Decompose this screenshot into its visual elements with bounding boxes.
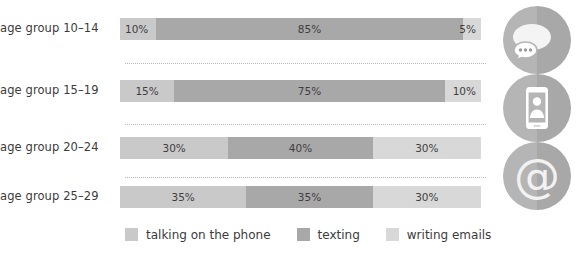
segment-value: 85% bbox=[298, 24, 321, 35]
chart-row: age group 10–14 10% 85% 5% bbox=[0, 18, 495, 40]
chart-row: age group 15–19 15% 75% 10% bbox=[0, 80, 495, 102]
segment-value: 10% bbox=[453, 86, 476, 97]
bar-segment-talking: 15% bbox=[120, 80, 174, 102]
bar-segment-texting: 35% bbox=[246, 186, 372, 208]
legend-swatch-icon bbox=[125, 228, 138, 241]
row-label-age-20-24: age group 20–24 bbox=[0, 142, 120, 154]
bar-segment-emails: 30% bbox=[373, 137, 481, 159]
row-label-age-25-29: age group 25–29 bbox=[0, 191, 120, 203]
legend-item-talking: talking on the phone bbox=[125, 228, 271, 241]
legend-item-emails: writing emails bbox=[386, 228, 492, 241]
segment-value: 30% bbox=[415, 143, 438, 154]
legend-label: writing emails bbox=[407, 229, 492, 241]
bar-segment-talking: 30% bbox=[120, 137, 228, 159]
row-label-age-10-14: age group 10–14 bbox=[0, 23, 120, 35]
segment-value: 10% bbox=[125, 24, 148, 35]
bar-segment-texting: 75% bbox=[174, 80, 445, 102]
bar-segment-talking: 35% bbox=[120, 186, 246, 208]
bar-segment-texting: 85% bbox=[156, 18, 463, 40]
segment-value: 75% bbox=[298, 86, 321, 97]
segment-value: 35% bbox=[172, 192, 195, 203]
stacked-bar: 30% 40% 30% bbox=[120, 137, 481, 159]
row-label-age-15-19: age group 15–19 bbox=[0, 85, 120, 97]
chat-bubbles-glyph bbox=[503, 6, 571, 74]
chart-row: age group 20–24 30% 40% 30% bbox=[0, 137, 495, 159]
row-divider bbox=[125, 177, 486, 178]
stacked-bar: 15% 75% 10% bbox=[120, 80, 481, 102]
segment-value: 30% bbox=[162, 143, 185, 154]
legend-label: talking on the phone bbox=[146, 229, 271, 241]
infographic-root: age group 10–14 10% 85% 5% age group 15–… bbox=[0, 0, 581, 259]
legend-label: texting bbox=[318, 229, 360, 241]
segment-value: 40% bbox=[289, 143, 312, 154]
chart-legend: talking on the phone texting writing ema… bbox=[125, 228, 517, 241]
row-divider bbox=[125, 124, 486, 125]
smartphone-contact-icon bbox=[503, 74, 571, 142]
bar-segment-emails: 30% bbox=[373, 186, 481, 208]
bar-segment-texting: 40% bbox=[228, 137, 372, 159]
chat-bubbles-icon bbox=[503, 6, 571, 74]
stacked-bar: 10% 85% 5% bbox=[120, 18, 481, 40]
segment-value: 35% bbox=[298, 192, 321, 203]
legend-item-texting: texting bbox=[297, 228, 360, 241]
legend-swatch-icon bbox=[297, 228, 310, 241]
bar-segment-talking: 10% bbox=[120, 18, 156, 40]
chart-row: age group 25–29 35% 35% 30% bbox=[0, 186, 495, 208]
at-sign-icon: @ bbox=[503, 142, 571, 210]
row-divider bbox=[125, 63, 486, 64]
segment-value: 30% bbox=[415, 192, 438, 203]
bar-segment-emails: 10% bbox=[445, 80, 481, 102]
bar-segment-emails: 5% bbox=[463, 18, 481, 40]
segment-value: 15% bbox=[135, 86, 158, 97]
legend-swatch-icon bbox=[386, 228, 399, 241]
smartphone-contact-glyph bbox=[503, 74, 571, 142]
at-sign-glyph: @ bbox=[503, 142, 571, 210]
stacked-bar: 35% 35% 30% bbox=[120, 186, 481, 208]
icon-column: @ bbox=[497, 6, 581, 218]
stacked-bar-chart: age group 10–14 10% 85% 5% age group 15–… bbox=[0, 0, 495, 215]
segment-value: 5% bbox=[459, 24, 476, 35]
